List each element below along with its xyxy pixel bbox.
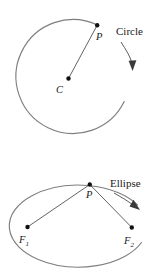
ellipse-focus2-dot — [130, 225, 134, 229]
geometry-figure: C P Circle F1 F2 — [0, 0, 166, 277]
ellipse-focus2-label: F2 — [123, 235, 134, 249]
ellipse-focus1-dot — [25, 225, 29, 229]
radius-segment — [69, 26, 98, 79]
ellipse-caption: Ellipse — [110, 177, 141, 189]
ellipse-panel: F1 F2 P Ellipse — [9, 177, 141, 267]
circle-outline — [16, 20, 124, 134]
circle-center-label: C — [56, 84, 64, 95]
circle-point-label: P — [95, 31, 103, 42]
circle-panel: C P Circle — [16, 20, 143, 134]
ellipse-point-dot — [88, 182, 92, 186]
circle-center-dot — [66, 76, 70, 80]
circle-caption: Circle — [116, 25, 143, 37]
focal-segment-right — [90, 185, 132, 228]
circle-pointer-arrowhead — [129, 60, 137, 71]
ellipse-focus1-label: F1 — [18, 234, 29, 248]
ellipse-pointer-arrowhead — [130, 200, 141, 210]
circle-point-dot — [95, 23, 99, 27]
focal-segment-left — [28, 185, 90, 228]
ellipse-point-label: P — [85, 189, 93, 200]
circle-pointer-arrow — [121, 42, 132, 63]
figure-canvas: C P Circle F1 F2 — [0, 0, 166, 277]
